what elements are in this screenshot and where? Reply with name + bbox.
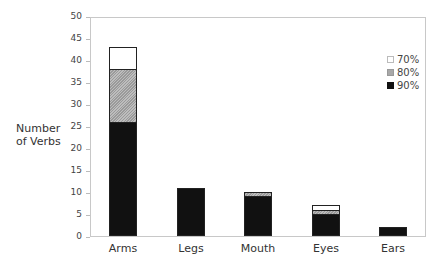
y-tick-label: 25 [60, 121, 82, 131]
y-axis-label: Number of Verbs [16, 122, 61, 148]
y-tick-label: 30 [60, 99, 82, 109]
y-tick-label: 35 [60, 77, 82, 87]
bar-segment-90pct [177, 188, 205, 236]
y-tick-label: 10 [60, 187, 82, 197]
legend-item-70: 70% [387, 53, 419, 66]
bar-arms [109, 47, 137, 236]
x-tick-label: Eyes [296, 242, 356, 255]
x-tick-label: Mouth [228, 242, 288, 255]
y-tick-label: 5 [60, 209, 82, 219]
y-tick-label: 0 [60, 231, 82, 241]
bar-segment-90pct [244, 196, 272, 236]
legend-item-90: 90% [387, 79, 419, 92]
legend-item-80: 80% [387, 66, 419, 79]
plot-area [90, 17, 426, 237]
bar-segment-90pct [312, 214, 340, 236]
legend: 70% 80% 90% [387, 53, 419, 92]
y-tick-label: 15 [60, 165, 82, 175]
bar-ears [379, 227, 407, 236]
x-tick-label: Legs [161, 242, 221, 255]
bar-segment-90pct [379, 227, 407, 236]
y-tick-label: 40 [60, 55, 82, 65]
y-axis-label-line2: of Verbs [16, 135, 61, 148]
bar-segment-70pct [109, 47, 137, 69]
legend-label-90: 90% [397, 80, 419, 91]
legend-swatch-80 [387, 69, 394, 76]
y-tick-label: 50 [60, 11, 82, 21]
bar-mouth [244, 192, 272, 236]
bar-legs [177, 188, 205, 236]
y-tick-mark [86, 237, 90, 238]
legend-label-70: 70% [397, 54, 419, 65]
bar-segment-90pct [109, 122, 137, 236]
legend-swatch-70 [387, 56, 394, 63]
legend-swatch-90 [387, 82, 394, 89]
bar-segment-80pct [109, 69, 137, 122]
bar-eyes [312, 205, 340, 236]
y-tick-label: 45 [60, 33, 82, 43]
y-axis-label-line1: Number [16, 122, 61, 135]
x-tick-label: Arms [93, 242, 153, 255]
y-tick-label: 20 [60, 143, 82, 153]
legend-label-80: 80% [397, 67, 419, 78]
x-tick-label: Ears [363, 242, 423, 255]
